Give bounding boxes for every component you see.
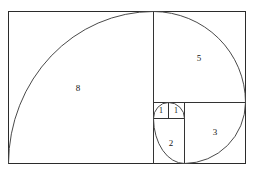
arc-square-8: [9, 12, 154, 164]
square-label-3: 3: [213, 127, 218, 137]
square-label-5: 5: [197, 53, 202, 63]
fibonacci-spiral-svg: 8 5 3 2 1 1: [0, 0, 254, 174]
square-label-8: 8: [76, 83, 81, 93]
fibonacci-diagram: 8 5 3 2 1 1: [0, 0, 254, 174]
square-label-1-right: 1: [174, 106, 178, 115]
outer-rectangle: [9, 12, 246, 164]
square-label-1-left: 1: [159, 106, 163, 115]
square-label-2: 2: [169, 138, 174, 148]
